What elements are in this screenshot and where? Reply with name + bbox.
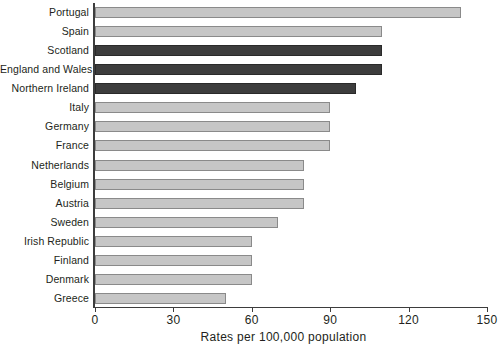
- bar-northern-ireland: [95, 83, 356, 94]
- x-tick-label-0: 0: [92, 313, 99, 327]
- category-label-portugal: Portugal: [0, 7, 89, 18]
- x-axis-title: Rates per 100,000 population: [0, 330, 503, 344]
- bar-row: [95, 251, 487, 269]
- category-label-scotland: Scotland: [0, 45, 89, 56]
- bar-row: [95, 156, 487, 174]
- bar-england-and-wales: [95, 64, 382, 75]
- x-tick-150: [487, 308, 488, 312]
- bar-spain: [95, 26, 382, 37]
- bar-austria: [95, 198, 304, 209]
- bar-row: [95, 22, 487, 40]
- x-tick-label-60: 60: [245, 313, 259, 327]
- bar-chart: PortugalSpainScotlandEngland and WalesNo…: [0, 0, 503, 352]
- bar-france: [95, 140, 330, 151]
- x-axis-line: [94, 307, 488, 308]
- bar-sweden: [95, 217, 278, 228]
- category-label-england-and-wales: England and Wales: [0, 64, 89, 75]
- x-tick-label-90: 90: [323, 313, 337, 327]
- category-label-italy: Italy: [0, 102, 89, 113]
- x-tick-label-120: 120: [398, 313, 419, 327]
- category-label-sweden: Sweden: [0, 217, 89, 228]
- x-tick-label-30: 30: [166, 313, 180, 327]
- bar-row: [95, 270, 487, 288]
- bar-row: [95, 60, 487, 78]
- bar-row: [95, 117, 487, 135]
- category-label-netherlands: Netherlands: [0, 160, 89, 171]
- category-label-belgium: Belgium: [0, 179, 89, 190]
- category-label-irish-republic: Irish Republic: [0, 236, 89, 247]
- x-tick-30: [173, 308, 174, 312]
- category-label-austria: Austria: [0, 198, 89, 209]
- category-label-germany: Germany: [0, 121, 89, 132]
- category-label-denmark: Denmark: [0, 274, 89, 285]
- bar-italy: [95, 102, 330, 113]
- x-tick-90: [330, 308, 331, 312]
- category-label-spain: Spain: [0, 26, 89, 37]
- bar-row: [95, 136, 487, 154]
- category-axis-labels: PortugalSpainScotlandEngland and WalesNo…: [0, 3, 89, 308]
- bar-scotland: [95, 45, 382, 56]
- category-label-greece: Greece: [0, 293, 89, 304]
- x-tick-120: [409, 308, 410, 312]
- bar-irish-republic: [95, 236, 252, 247]
- bar-germany: [95, 121, 330, 132]
- bar-row: [95, 194, 487, 212]
- bar-row: [95, 289, 487, 307]
- bar-netherlands: [95, 160, 304, 171]
- bar-row: [95, 41, 487, 59]
- bar-denmark: [95, 274, 252, 285]
- bar-row: [95, 175, 487, 193]
- bar-portugal: [95, 7, 461, 18]
- bar-row: [95, 232, 487, 250]
- bars-container: [95, 3, 487, 308]
- bar-row: [95, 3, 487, 21]
- category-label-france: France: [0, 140, 89, 151]
- x-tick-60: [252, 308, 253, 312]
- bar-finland: [95, 255, 252, 266]
- x-tick-0: [95, 308, 96, 312]
- category-label-finland: Finland: [0, 255, 89, 266]
- bar-row: [95, 98, 487, 116]
- bar-greece: [95, 293, 226, 304]
- x-tick-label-150: 150: [477, 313, 498, 327]
- bar-row: [95, 79, 487, 97]
- bar-row: [95, 213, 487, 231]
- category-label-northern-ireland: Northern Ireland: [0, 83, 89, 94]
- bar-belgium: [95, 179, 304, 190]
